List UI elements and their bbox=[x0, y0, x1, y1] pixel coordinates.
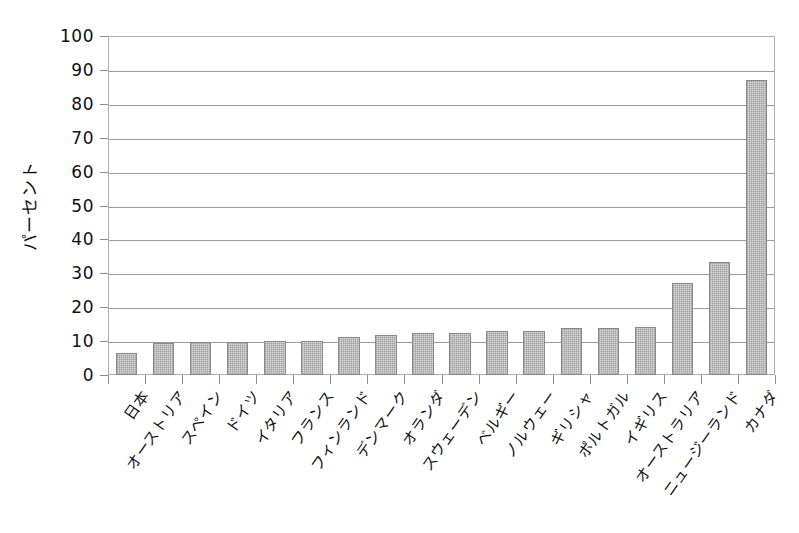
y-axis-title-text: パーセント bbox=[16, 160, 41, 250]
x-axis-tick-mark bbox=[738, 375, 739, 384]
x-axis-tick-label: カナダ bbox=[739, 386, 783, 436]
x-axis-tick-mark bbox=[516, 375, 517, 384]
bar bbox=[227, 342, 248, 375]
bar-slot bbox=[590, 36, 627, 375]
y-axis-tick-label: 50 bbox=[71, 196, 94, 216]
bar bbox=[449, 333, 470, 375]
bar-slot bbox=[330, 36, 367, 375]
x-axis-tick-mark bbox=[182, 375, 183, 384]
y-axis-tick-label: 20 bbox=[71, 297, 94, 317]
y-axis-tick-label: 70 bbox=[71, 128, 94, 148]
y-axis-tick-mark bbox=[100, 206, 108, 207]
y-axis-tick-mark bbox=[100, 138, 108, 139]
bar bbox=[709, 262, 730, 375]
x-axis-tick-mark bbox=[775, 375, 776, 384]
y-axis-tick-label: 10 bbox=[71, 331, 94, 351]
bar bbox=[301, 341, 322, 375]
y-axis-tick-mark bbox=[100, 172, 108, 173]
bar-slot bbox=[701, 36, 738, 375]
x-axis-tick-mark bbox=[553, 375, 554, 384]
bar-slot bbox=[182, 36, 219, 375]
x-axis-tick-mark bbox=[627, 375, 628, 384]
bar bbox=[486, 331, 507, 375]
bar-slot bbox=[627, 36, 664, 375]
bar bbox=[375, 335, 396, 375]
bar-slot bbox=[367, 36, 404, 375]
x-axis-tick-mark bbox=[442, 375, 443, 384]
x-axis-tick-mark bbox=[145, 375, 146, 384]
bar bbox=[746, 80, 767, 375]
x-axis-tick-mark bbox=[219, 375, 220, 384]
x-axis-tick-label: 日本 bbox=[118, 386, 153, 423]
bar bbox=[523, 331, 544, 375]
x-axis-tick-mark bbox=[367, 375, 368, 384]
bar-slot bbox=[293, 36, 330, 375]
bar-slot bbox=[219, 36, 256, 375]
bar bbox=[412, 333, 433, 375]
y-axis-tick-mark bbox=[100, 239, 108, 240]
y-axis-tick-label: 30 bbox=[71, 263, 94, 283]
x-axis-tick-mark bbox=[330, 375, 331, 384]
y-axis-tick-mark bbox=[100, 273, 108, 274]
y-axis-title: パーセント bbox=[14, 120, 42, 290]
bar-slot bbox=[442, 36, 479, 375]
y-axis-tick-label: 60 bbox=[71, 162, 94, 182]
y-axis-tick-label: 100 bbox=[60, 26, 94, 46]
bar-slot bbox=[664, 36, 701, 375]
bar-slot bbox=[479, 36, 516, 375]
bar-slot bbox=[738, 36, 775, 375]
bar bbox=[153, 343, 174, 375]
y-axis-tick-labels: 0102030405060708090100 bbox=[48, 36, 100, 375]
bar-slot bbox=[405, 36, 442, 375]
bar-slot bbox=[256, 36, 293, 375]
bar bbox=[190, 342, 211, 375]
y-axis-tick-mark bbox=[100, 307, 108, 308]
x-axis-tick-marks bbox=[108, 375, 775, 384]
x-axis-tick-mark bbox=[664, 375, 665, 384]
x-axis-tick-mark bbox=[479, 375, 480, 384]
y-axis-tick-mark bbox=[100, 104, 108, 105]
bar-slot bbox=[553, 36, 590, 375]
bar-slot bbox=[108, 36, 145, 375]
bar bbox=[635, 327, 656, 375]
x-axis-tick-mark bbox=[701, 375, 702, 384]
y-axis-tick-label: 40 bbox=[71, 229, 94, 249]
bar bbox=[561, 328, 582, 375]
bar bbox=[672, 283, 693, 375]
x-axis-tick-mark bbox=[590, 375, 591, 384]
y-axis-tick-label: 80 bbox=[71, 94, 94, 114]
y-axis-tick-mark bbox=[100, 70, 108, 71]
x-axis-tick-mark bbox=[404, 375, 405, 384]
bar-slot bbox=[516, 36, 553, 375]
y-axis-tick-mark bbox=[100, 341, 108, 342]
bar-slot bbox=[145, 36, 182, 375]
bar bbox=[338, 337, 359, 375]
bar bbox=[264, 341, 285, 375]
y-axis-tick-label: 0 bbox=[83, 365, 94, 385]
bars-container bbox=[108, 36, 775, 375]
bar bbox=[598, 328, 619, 375]
y-axis-tick-label: 90 bbox=[71, 60, 94, 80]
y-axis-tick-mark bbox=[100, 36, 108, 37]
y-axis-tick-mark bbox=[100, 375, 108, 376]
x-axis-tick-mark bbox=[108, 375, 109, 384]
x-axis-tick-mark bbox=[293, 375, 294, 384]
bar bbox=[116, 353, 137, 375]
bar-chart: パーセント 0102030405060708090100 日本オーストリアスペイ… bbox=[0, 0, 799, 533]
x-axis-tick-mark bbox=[256, 375, 257, 384]
x-axis-tick-labels: 日本オーストリアスペインドイツイタリアフランスフィンランドデンマークオランダスウ… bbox=[108, 386, 775, 526]
